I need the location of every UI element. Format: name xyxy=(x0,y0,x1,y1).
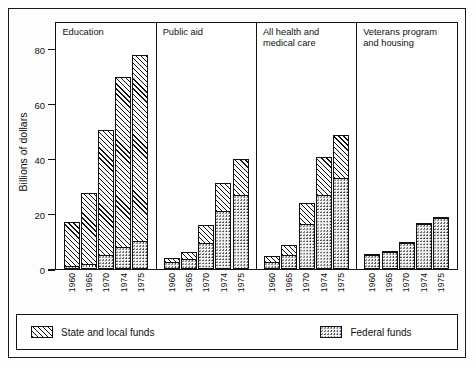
bar-segment-federal xyxy=(433,218,449,269)
legend-swatch-state-icon xyxy=(31,326,53,338)
x-label-wrap: 1960 xyxy=(264,272,280,306)
bar-1975[interactable] xyxy=(233,23,249,269)
chart-root: Billions of dollars 020406080 EducationP… xyxy=(0,0,476,369)
y-axis-tick xyxy=(48,269,55,270)
y-axis-tick xyxy=(48,104,55,105)
x-label-wrap: 1974 xyxy=(316,272,332,306)
bar-1960[interactable] xyxy=(64,23,80,269)
bar-segment-state-local xyxy=(299,203,315,225)
bar-1965[interactable] xyxy=(281,23,297,269)
x-label-wrap: 1975 xyxy=(333,272,349,306)
x-label-wrap: 1975 xyxy=(133,272,149,306)
bar-segment-state-local xyxy=(132,55,148,242)
bar-1970[interactable] xyxy=(198,23,214,269)
x-axis-tick-label: 1970 xyxy=(101,273,111,292)
panel-group: EducationPublic aidAll health and medica… xyxy=(56,23,456,269)
bar-segment-federal xyxy=(115,247,131,269)
bar-segment-federal xyxy=(81,264,97,270)
bar-segment-state-local xyxy=(198,225,214,244)
y-axis-tick-label: 0 xyxy=(0,265,45,276)
x-label-wrap: 1960 xyxy=(364,272,380,306)
bar-1970[interactable] xyxy=(399,23,415,269)
bar-segment-federal xyxy=(132,241,148,269)
x-label-wrap: 1970 xyxy=(398,272,414,306)
bar-1960[interactable] xyxy=(264,23,280,269)
x-axis-tick-label: 1975 xyxy=(236,273,246,292)
panel-bars xyxy=(157,23,256,269)
bar-segment-federal xyxy=(299,224,315,269)
panel-4: Veterans program and housing xyxy=(357,23,456,269)
bar-segment-federal xyxy=(399,243,415,269)
x-axis-tick-label: 1965 xyxy=(284,273,294,292)
y-axis-label-wrap: 40 xyxy=(0,160,45,171)
panel-1: Education xyxy=(56,23,156,269)
bar-segment-state-local xyxy=(81,193,97,265)
panel-3: All health and medical care xyxy=(257,23,357,269)
x-label-wrap: 1974 xyxy=(416,272,432,306)
bar-1974[interactable] xyxy=(115,23,131,269)
x-axis-tick-label: 1965 xyxy=(184,273,194,292)
bar-segment-federal xyxy=(164,262,180,269)
bar-1974[interactable] xyxy=(215,23,231,269)
y-axis-tick xyxy=(48,159,55,160)
bar-segment-federal xyxy=(281,255,297,269)
bar-1974[interactable] xyxy=(416,23,432,269)
x-label-wrap: 1960 xyxy=(64,272,80,306)
x-label-panel: 19601965197019741975 xyxy=(256,272,356,306)
y-axis-tick-label: 20 xyxy=(0,209,45,220)
bar-1975[interactable] xyxy=(433,23,449,269)
x-axis-tick-label: 1974 xyxy=(319,273,329,292)
x-axis-tick-label: 1960 xyxy=(367,273,377,292)
x-axis-tick-label: 1970 xyxy=(201,273,211,292)
bar-segment-federal xyxy=(316,195,332,269)
x-label-wrap: 1974 xyxy=(116,272,132,306)
y-axis-tick xyxy=(48,214,55,215)
bar-segment-federal xyxy=(233,195,249,269)
x-axis-tick-label: 1970 xyxy=(401,273,411,292)
bar-1970[interactable] xyxy=(98,23,114,269)
x-axis-tick-label: 1965 xyxy=(84,273,94,292)
x-label-wrap: 1965 xyxy=(381,272,397,306)
bar-segment-federal xyxy=(198,243,214,269)
bar-segment-federal xyxy=(382,252,398,269)
legend-item-federal: Federal funds xyxy=(320,326,411,338)
y-axis-label-wrap: 60 xyxy=(0,105,45,116)
bar-segment-federal xyxy=(64,266,80,269)
bar-segment-federal xyxy=(364,255,380,269)
panel-bars xyxy=(56,23,155,269)
x-axis-tick-label: 1975 xyxy=(336,273,346,292)
bar-1975[interactable] xyxy=(132,23,148,269)
bar-1974[interactable] xyxy=(316,23,332,269)
bar-segment-federal xyxy=(181,259,197,269)
bar-1970[interactable] xyxy=(299,23,315,269)
bar-segment-federal xyxy=(264,262,280,269)
x-axis-tick-label: 1975 xyxy=(436,273,446,292)
y-axis-tick xyxy=(48,49,55,50)
bar-1960[interactable] xyxy=(364,23,380,269)
bar-1960[interactable] xyxy=(164,23,180,269)
x-label-wrap: 1970 xyxy=(98,272,114,306)
bar-segment-state-local xyxy=(115,77,131,248)
y-axis-tick-label: 60 xyxy=(0,99,45,110)
y-axis-label-wrap: 0 xyxy=(0,270,45,281)
x-axis-tick-label: 1974 xyxy=(219,273,229,292)
x-label-wrap: 1965 xyxy=(281,272,297,306)
bar-segment-federal xyxy=(215,211,231,269)
bar-1965[interactable] xyxy=(81,23,97,269)
bar-1975[interactable] xyxy=(333,23,349,269)
x-label-wrap: 1974 xyxy=(216,272,232,306)
y-axis-tick-label: 40 xyxy=(0,154,45,165)
bar-segment-state-local xyxy=(233,159,249,196)
legend-label-state: State and local funds xyxy=(61,327,154,338)
bar-segment-federal xyxy=(98,255,114,269)
x-label-wrap: 1965 xyxy=(181,272,197,306)
bar-segment-state-local xyxy=(98,130,114,257)
legend: State and local funds Federal funds xyxy=(16,314,458,350)
x-label-panel: 19601965197019741975 xyxy=(56,272,156,306)
bar-1965[interactable] xyxy=(181,23,197,269)
bar-segment-federal xyxy=(416,224,432,269)
bar-1965[interactable] xyxy=(382,23,398,269)
x-label-panel: 19601965197019741975 xyxy=(356,272,456,306)
bar-segment-state-local xyxy=(316,157,332,196)
x-label-wrap: 1970 xyxy=(198,272,214,306)
